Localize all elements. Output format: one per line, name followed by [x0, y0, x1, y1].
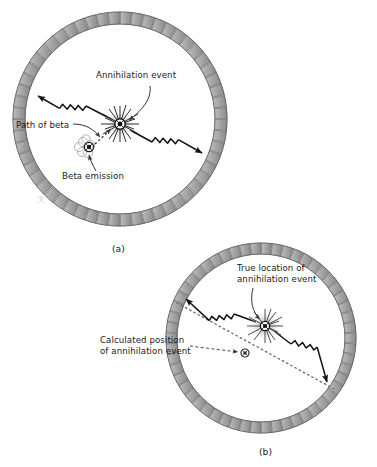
- beta-emission-point-a: [74, 135, 94, 158]
- label-annihilation-event: Annihilation event: [96, 70, 176, 81]
- detector-segment: [271, 420, 282, 432]
- panel-a: ℛ: [13, 12, 227, 226]
- detector-segment: [345, 333, 356, 343]
- annihilation-event-point-a: [101, 105, 139, 142]
- detector-segment: [131, 13, 143, 27]
- leader-beta-emission-a: [89, 155, 96, 171]
- detector-segment: [97, 212, 109, 226]
- detector-segment: [14, 130, 28, 142]
- true-location-point-b: [247, 309, 283, 343]
- watermark: ℛ: [37, 195, 44, 205]
- caption-panel-a: (a): [112, 243, 125, 254]
- detector-segment: [13, 107, 26, 118]
- label-true-location: True location of annihilation event: [237, 263, 317, 284]
- detector-segment: [240, 420, 251, 432]
- pet-scanner-figure: ℛ: [0, 0, 377, 467]
- detector-segment: [108, 12, 119, 25]
- detector-segment: [108, 213, 119, 226]
- detector-segment: [213, 130, 227, 142]
- gamma-ray-lower-right-a: [130, 130, 202, 153]
- detector-segment: [213, 96, 227, 108]
- detector-segment: [14, 96, 28, 108]
- detector-segment: [250, 421, 260, 433]
- detector-segment: [214, 119, 227, 130]
- calculated-position-point-b: [241, 349, 249, 357]
- detector-segment: [214, 107, 227, 118]
- detector-segment: [344, 322, 356, 333]
- detector-segment: [166, 322, 178, 333]
- detector-segment: [261, 243, 271, 255]
- figure-canvas: ℛ: [0, 0, 377, 467]
- detector-segment: [250, 243, 260, 255]
- label-path-of-beta: Path of beta: [16, 120, 69, 131]
- detector-segment: [344, 343, 356, 354]
- gamma-ray-upper-left-a: [38, 96, 113, 120]
- label-beta-emission: Beta emission: [62, 171, 124, 182]
- detector-segment: [261, 421, 271, 433]
- detector-segment: [120, 213, 131, 226]
- detector-segment: [131, 212, 143, 226]
- detector-segment: [120, 12, 131, 25]
- gamma-ray-lower-right-b: [274, 331, 327, 382]
- detector-segment: [240, 244, 251, 256]
- label-calculated-position: Calculated position of annihilation even…: [100, 335, 191, 356]
- detector-segment: [271, 244, 282, 256]
- caption-panel-b: (b): [259, 446, 272, 457]
- detector-segment: [97, 13, 109, 27]
- gamma-ray-upper-left-b: [186, 299, 256, 322]
- leader-calculated-position-b: [190, 346, 238, 352]
